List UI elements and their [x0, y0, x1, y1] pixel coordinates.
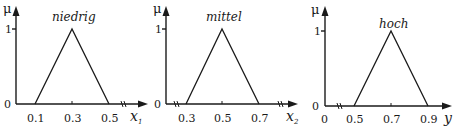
y-tick-label-1: 1	[5, 23, 12, 36]
membership-triangle	[35, 29, 109, 104]
x-tick-label: 0.3	[178, 112, 196, 125]
y-tick-label-0: 0	[312, 100, 319, 113]
x-axis-label: x2	[286, 108, 299, 126]
x-tick-label: 0.7	[383, 113, 401, 126]
x-tick-label: 0.5	[346, 113, 364, 126]
x-tick-label: 0.1	[27, 112, 45, 125]
set-label: mittel	[206, 10, 242, 24]
mu-label: μ	[153, 1, 161, 16]
x-tick-label: 0.5	[101, 112, 119, 125]
chart-hoch: μ 1 0 hoch 0 0.5 0.7 0.9 y	[311, 2, 453, 126]
y-tick-label-0: 0	[154, 98, 161, 111]
y-axis-arrow-icon	[13, 6, 20, 16]
chart-mittel: μ 1 0 mittel 0.3 0.5 0.7 x2	[153, 1, 299, 126]
x-axis-arrow-icon	[442, 103, 452, 110]
x-axis-label: x1	[130, 108, 142, 126]
chart-niedrig: μ 1 0 niedrig 0.1 0.3 0.5 x1	[3, 1, 148, 126]
x-tick-label: 0	[321, 113, 328, 126]
mu-label: μ	[311, 2, 319, 17]
x-tick-label: 0.3	[64, 112, 82, 125]
x-axis-arrow-icon	[138, 101, 148, 108]
set-label: hoch	[379, 17, 408, 31]
y-tick-label-0: 0	[4, 98, 11, 111]
x-tick-label: 0.5	[214, 112, 232, 125]
y-axis-arrow-icon	[322, 6, 329, 16]
x-tick-label: 0.9	[420, 113, 438, 126]
y-tick-label-1: 1	[314, 25, 321, 38]
membership-triangle	[354, 31, 428, 106]
y-axis-arrow-icon	[163, 6, 170, 16]
x-axis-arrow-icon	[288, 101, 298, 108]
x-axis-label: y	[443, 110, 453, 126]
x-tick-label: 0.7	[251, 112, 269, 125]
y-tick-label-1: 1	[155, 23, 162, 36]
set-label: niedrig	[52, 10, 96, 24]
membership-triangle	[186, 29, 259, 104]
mu-label: μ	[3, 1, 11, 16]
fuzzy-membership-charts: μ 1 0 niedrig 0.1 0.3 0.5 x1 μ 1 0 mitte…	[0, 0, 457, 128]
